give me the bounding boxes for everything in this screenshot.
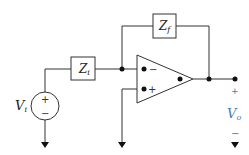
circuit-diagram: Zi Zf − + + − Vi + Vo − — [0, 0, 249, 155]
wire-source-to-zi — [45, 69, 71, 92]
junction-node-input — [120, 67, 125, 72]
opamp-output-dot — [178, 77, 183, 82]
wire-noninverting-ground — [122, 89, 137, 142]
output-minus: − — [231, 128, 239, 139]
junction-node-output — [207, 77, 212, 82]
noninverting-input-dot — [142, 87, 147, 92]
ground-arrow-icon — [231, 142, 239, 148]
vo-label: Vo — [227, 106, 241, 122]
inverting-sign: − — [149, 64, 157, 75]
ground-arrow-icon — [118, 142, 126, 148]
output-plus: + — [231, 86, 239, 96]
source-plus: + — [41, 94, 49, 105]
source-minus: − — [41, 108, 49, 119]
noninverting-sign: + — [148, 84, 156, 95]
inverting-input-dot — [142, 67, 147, 72]
opamp-triangle — [137, 55, 193, 103]
vi-label: Vi — [15, 98, 27, 114]
output-terminal — [233, 77, 238, 82]
ground-arrow-icon — [41, 142, 49, 148]
wire-feedback-right — [176, 26, 209, 79]
